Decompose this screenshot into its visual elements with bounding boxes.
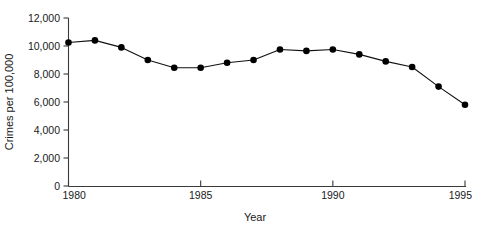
y-tick-label: 0: [54, 180, 60, 192]
data-point: [382, 58, 389, 65]
x-axis-ticks: [69, 181, 466, 187]
data-point: [409, 64, 416, 71]
data-line-series: [69, 40, 466, 104]
y-tick-label: 2,000: [34, 152, 60, 164]
data-point: [330, 46, 337, 53]
data-point: [462, 102, 469, 109]
data-point: [197, 64, 204, 71]
data-point: [92, 37, 99, 44]
x-tick-label: 1995: [449, 189, 473, 201]
line-chart: 02,0004,0006,0008,00010,00012,000 198019…: [0, 0, 481, 229]
y-tick-label: 4,000: [34, 124, 60, 136]
data-point: [171, 64, 178, 71]
data-point: [118, 44, 125, 51]
y-tick-label: 10,000: [28, 40, 60, 52]
x-tick-label: 1990: [321, 189, 345, 201]
data-point: [65, 39, 72, 46]
x-axis-group: 1980198519901995: [63, 181, 473, 202]
data-point: [277, 46, 284, 53]
data-point: [356, 51, 363, 58]
data-point: [250, 57, 257, 64]
data-point-markers: [65, 37, 468, 108]
chart-container: 02,0004,0006,0008,00010,00012,000 198019…: [0, 0, 481, 229]
data-point: [224, 60, 231, 67]
y-tick-label: 8,000: [34, 68, 60, 80]
y-tick-label: 6,000: [34, 96, 60, 108]
y-axis-group: 02,0004,0006,0008,00010,00012,000: [28, 12, 69, 192]
data-point: [145, 57, 152, 64]
y-axis-tick-labels: 02,0004,0006,0008,00010,00012,000: [28, 12, 60, 192]
data-point: [435, 83, 442, 90]
data-point: [303, 48, 310, 55]
y-axis-title: Crimes per 100,000: [3, 54, 15, 151]
x-axis-tick-labels: 1980198519901995: [63, 189, 473, 201]
x-axis-title: Year: [244, 211, 267, 223]
y-tick-label: 12,000: [28, 12, 60, 24]
x-tick-label: 1980: [63, 189, 87, 201]
x-tick-label: 1985: [189, 189, 213, 201]
